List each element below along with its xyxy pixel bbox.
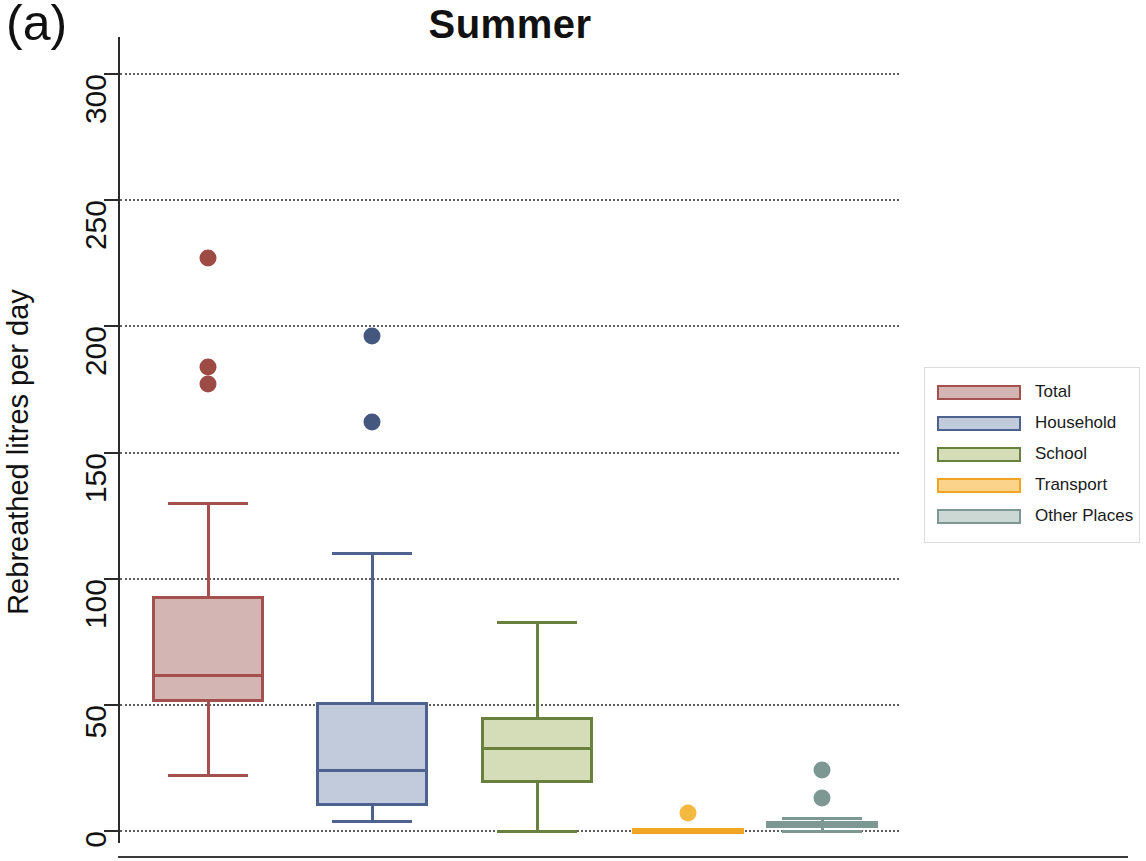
y-tick-label-text: 250 [79, 200, 113, 250]
y-axis-line [118, 37, 120, 843]
legend-swatch-icon [937, 385, 1021, 400]
cap-lower [497, 830, 577, 833]
whisker-lower [536, 783, 539, 831]
y-tick-label-text: 100 [79, 579, 113, 629]
gridline-150 [120, 452, 899, 454]
legend-swatch-icon [937, 447, 1021, 462]
outlier-point [364, 414, 381, 431]
legend-item-label: Total [1035, 382, 1071, 402]
y-tick-label-text: 50 [79, 705, 113, 738]
legend: TotalHouseholdSchoolTransportOther Place… [924, 367, 1140, 543]
y-tick-label-text: 0 [79, 831, 113, 848]
gridline-250 [120, 199, 899, 201]
gridline-50 [120, 704, 899, 706]
median-line [316, 769, 428, 772]
whisker-upper [536, 622, 539, 718]
outlier-point [814, 790, 831, 807]
cap-upper [497, 621, 577, 624]
legend-item-label: Transport [1035, 475, 1107, 495]
outlier-point [364, 328, 381, 345]
legend-item-total[interactable]: Total [937, 380, 1129, 404]
outlier-point [814, 762, 831, 779]
gridline-300 [120, 73, 899, 75]
cap-lower [782, 830, 862, 833]
y-tick-label-text: 300 [79, 74, 113, 124]
whisker-upper [371, 553, 374, 702]
whisker-lower [371, 806, 374, 821]
legend-item-label: Household [1035, 413, 1116, 433]
legend-swatch-icon [937, 416, 1021, 431]
box-iqr [481, 717, 593, 783]
box-iqr [316, 702, 428, 805]
legend-item-transport[interactable]: Transport [937, 473, 1129, 497]
y-tick-label-text: 150 [79, 453, 113, 503]
legend-item-other-places[interactable]: Other Places [937, 504, 1129, 528]
gridline-100 [120, 578, 899, 580]
median-line [152, 674, 264, 677]
outlier-point [680, 805, 697, 822]
box-iqr [152, 596, 264, 702]
outlier-point [200, 376, 217, 393]
cap-upper [332, 552, 412, 555]
median-line [632, 830, 744, 833]
legend-item-label: School [1035, 444, 1087, 464]
whisker-lower [207, 702, 210, 775]
median-line [481, 747, 593, 750]
legend-item-household[interactable]: Household [937, 411, 1129, 435]
median-line [766, 822, 878, 825]
gridline-200 [120, 325, 899, 327]
y-axis-title: Rebreathed litres per day [2, 289, 35, 615]
whisker-upper [207, 503, 210, 596]
outlier-point [200, 358, 217, 375]
legend-item-school[interactable]: School [937, 442, 1129, 466]
cap-lower [332, 820, 412, 823]
legend-swatch-icon [937, 478, 1021, 493]
legend-item-label: Other Places [1035, 506, 1133, 526]
cap-lower [168, 774, 248, 777]
outlier-point [200, 250, 217, 267]
legend-swatch-icon [937, 509, 1021, 524]
y-tick-label-text: 200 [79, 326, 113, 376]
cap-upper [168, 502, 248, 505]
plot-bottom-frame [118, 856, 1128, 858]
